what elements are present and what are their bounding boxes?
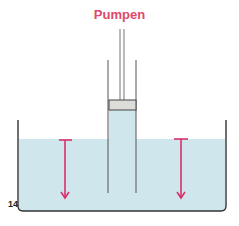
figure-number: 14 (8, 199, 18, 209)
tank-water (19, 139, 225, 211)
piston (109, 100, 136, 110)
pump-diagram (0, 0, 239, 226)
tube-water (109, 110, 136, 140)
